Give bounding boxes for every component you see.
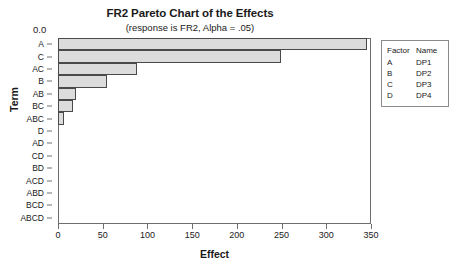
reference-line-label: 0.0 [33,24,46,35]
x-axis-tick-label: 300 [319,230,334,240]
y-axis-tick-label-c: C [38,52,44,62]
x-axis-tick [58,224,59,229]
x-axis-tick-label: 100 [140,230,155,240]
y-axis-tick-label-b: B [38,76,44,86]
y-axis-tick-label-bc: BC [32,101,44,111]
legend-box: Factor Name ADP1BDP2CDP3DDP4 [381,40,449,107]
x-axis-tick-label: 200 [229,230,244,240]
y-axis: ACACBABBCABCDADCDBDACDABDBCDABCD [0,38,52,224]
y-axis-tick [47,118,52,119]
y-axis-tick [47,44,52,45]
y-axis-tick-label-ac: AC [32,64,44,74]
y-axis-tick-label-abcd: ABCD [20,213,44,223]
y-axis-tick [47,205,52,206]
legend-row: BDP2 [387,68,443,79]
legend-row: DDP4 [387,90,443,101]
legend-header-row: Factor Name [387,45,443,56]
bar-row [58,187,371,199]
y-axis-tick-label-acd: ACD [26,176,44,186]
x-axis-tick-label: 250 [274,230,289,240]
bar-row [58,50,371,62]
x-axis-tick-label: 0 [55,230,60,240]
page-title: FR2 Pareto Chart of the Effects [0,7,380,19]
y-axis-tick-label-d: D [38,126,44,136]
x-axis-tick-label: 150 [185,230,200,240]
bar-abc [58,112,64,124]
y-axis-tick-label-bcd: BCD [26,200,44,210]
y-axis-tick-label-ab: AB [33,89,44,99]
legend-factor: B [387,68,416,79]
bar-bc [58,100,73,112]
bar-row [58,212,371,224]
legend-name: DP2 [416,68,443,79]
y-axis-tick-label-bd: BD [32,163,44,173]
x-axis-tick-label: 350 [363,230,378,240]
y-axis-tick [47,217,52,218]
bar-row [58,88,371,100]
y-axis-tick-label-abc: ABC [27,114,44,124]
bar-row [58,162,371,174]
y-axis-title: Term [8,87,20,112]
x-axis-tick [237,224,238,229]
bar-row [58,137,371,149]
legend-name: DP1 [416,57,443,68]
bar-row [58,38,371,50]
x-axis-tick [103,224,104,229]
x-axis-tick [147,224,148,229]
legend-name: DP4 [416,90,443,101]
bar-b [58,75,107,87]
legend-factor: A [387,57,416,68]
y-axis-tick-label-ad: AD [32,138,44,148]
bar-c [58,50,281,62]
x-axis-tick [282,224,283,229]
x-axis-tick [192,224,193,229]
y-axis-tick [47,81,52,82]
y-axis-tick-label-abd: ABD [27,188,44,198]
bar-row [58,63,371,75]
y-axis-tick [47,143,52,144]
legend-name: DP3 [416,79,443,90]
y-axis-tick [47,56,52,57]
y-axis-tick [47,180,52,181]
bar-ac [58,63,137,75]
x-axis-tick-label: 50 [98,230,108,240]
legend-header-factor: Factor [387,45,416,56]
y-axis-tick [47,168,52,169]
bars-layer [58,38,371,224]
legend-factor: D [387,90,416,101]
bar-row [58,112,371,124]
y-axis-tick [47,69,52,70]
bar-row [58,125,371,137]
bar-row [58,174,371,186]
y-axis-tick-label-a: A [38,39,44,49]
bar-row [58,75,371,87]
bar-row [58,100,371,112]
y-axis-tick [47,155,52,156]
bar-a [58,38,367,50]
bar-ab [58,88,76,100]
y-axis-tick [47,93,52,94]
legend-row: ADP1 [387,57,443,68]
x-axis-tick [326,224,327,229]
x-axis-title: Effect [58,248,371,260]
y-axis-tick [47,131,52,132]
chart-subtitle: (response is FR2, Alpha = .05) [0,22,380,33]
y-axis-tick [47,193,52,194]
bar-row [58,150,371,162]
legend-header-name: Name [416,45,443,56]
bar-row [58,199,371,211]
legend-row: CDP3 [387,79,443,90]
y-axis-tick [47,106,52,107]
x-axis-tick [371,224,372,229]
legend-factor: C [387,79,416,90]
y-axis-tick-label-cd: CD [32,151,44,161]
